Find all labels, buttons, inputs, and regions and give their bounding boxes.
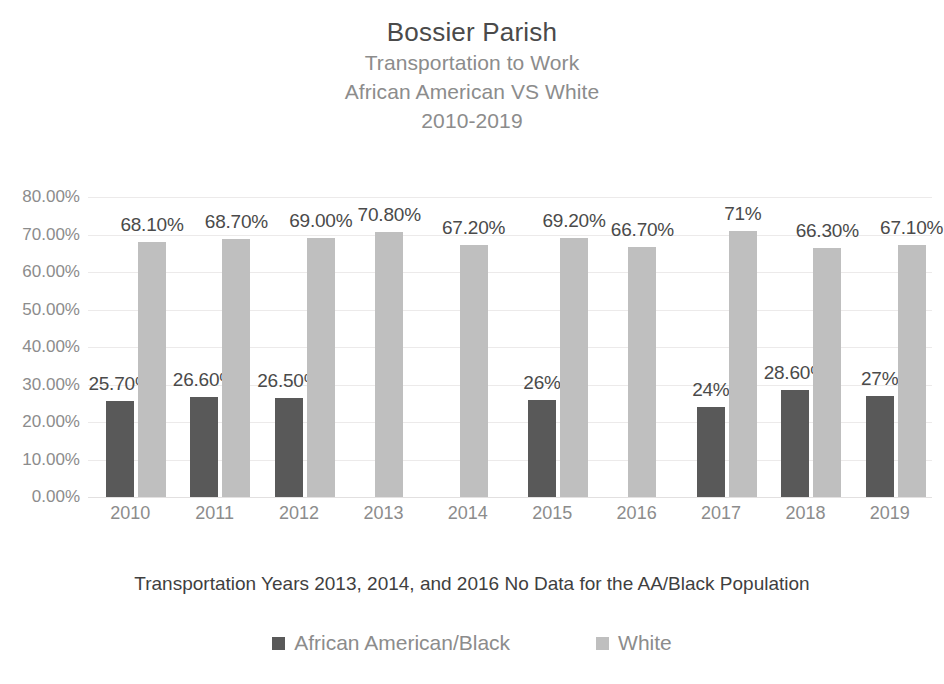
legend-swatch-icon xyxy=(272,637,285,650)
x-axis-tick-2017: 2017 xyxy=(679,503,763,533)
x-axis-tick-2014: 2014 xyxy=(426,503,510,533)
bar-label-white: 71% xyxy=(724,203,761,225)
bar-label-white: 67.20% xyxy=(442,217,505,239)
x-axis-tick-2015: 2015 xyxy=(510,503,594,533)
chart-canvas: Bossier Parish Transportation to Work Af… xyxy=(0,0,944,684)
bar-white[interactable] xyxy=(375,232,403,498)
bar-group: 26.60%68.70% xyxy=(172,197,256,497)
bar-group: 28.60%66.30% xyxy=(763,197,847,497)
bars-layer: 25.70%68.10%26.60%68.70%26.50%69.00%70.8… xyxy=(88,197,932,497)
x-axis: 2010201120122013201420152016201720182019 xyxy=(88,503,932,533)
chart-subtitle-3: 2010-2019 xyxy=(0,106,944,135)
bar-group: 70.80% xyxy=(341,197,425,497)
y-axis-tick: 10.00% xyxy=(22,450,80,470)
bar-white[interactable] xyxy=(628,247,656,497)
x-axis-tick-2010: 2010 xyxy=(88,503,172,533)
y-axis-tick: 50.00% xyxy=(22,300,80,320)
bar-african-american[interactable] xyxy=(106,401,134,497)
bar-white[interactable] xyxy=(138,242,166,497)
bar-white[interactable] xyxy=(729,231,757,497)
page-title: Bossier Parish xyxy=(0,16,944,48)
y-axis-tick: 40.00% xyxy=(22,337,80,357)
bar-group: 24%71% xyxy=(679,197,763,497)
bar-african-american[interactable] xyxy=(697,407,725,497)
bar-white[interactable] xyxy=(813,248,841,497)
bar-group: 27%67.10% xyxy=(848,197,932,497)
bar-label-white: 67.10% xyxy=(880,217,943,239)
y-axis-tick: 20.00% xyxy=(22,412,80,432)
x-axis-tick-2012: 2012 xyxy=(257,503,341,533)
y-axis-tick: 0.00% xyxy=(32,487,80,507)
bar-african-american[interactable] xyxy=(275,398,303,497)
chart-subtitle-1: Transportation to Work xyxy=(0,48,944,77)
bar-african-american[interactable] xyxy=(866,396,894,497)
x-axis-tick-2013: 2013 xyxy=(341,503,425,533)
x-axis-tick-2019: 2019 xyxy=(848,503,932,533)
y-axis: 80.00%70.00%60.00%50.00%40.00%30.00%20.0… xyxy=(6,185,80,509)
x-axis-tick-2016: 2016 xyxy=(594,503,678,533)
x-axis-tick-2018: 2018 xyxy=(763,503,847,533)
chart-legend: African American/BlackWhite xyxy=(0,631,944,655)
y-axis-tick: 70.00% xyxy=(22,225,80,245)
legend-item[interactable]: White xyxy=(596,631,672,655)
bar-african-american[interactable] xyxy=(190,397,218,497)
bar-african-american[interactable] xyxy=(528,400,556,498)
title-block: Bossier Parish Transportation to Work Af… xyxy=(0,16,944,135)
legend-label: African American/Black xyxy=(294,631,510,655)
bar-white[interactable] xyxy=(307,238,335,497)
bar-group: 66.70% xyxy=(594,197,678,497)
gridline xyxy=(88,497,932,498)
bar-white[interactable] xyxy=(560,238,588,498)
bar-african-american[interactable] xyxy=(781,390,809,497)
bar-white[interactable] xyxy=(460,245,488,497)
x-axis-tick-2011: 2011 xyxy=(172,503,256,533)
legend-label: White xyxy=(618,631,672,655)
legend-item[interactable]: African American/Black xyxy=(272,631,510,655)
bar-group: 25.70%68.10% xyxy=(88,197,172,497)
bar-white[interactable] xyxy=(222,239,250,497)
bar-label-white: 66.70% xyxy=(611,219,674,241)
bar-white[interactable] xyxy=(898,245,926,497)
bar-label-african-american: 24% xyxy=(692,379,729,401)
bar-group: 26%69.20% xyxy=(510,197,594,497)
y-axis-tick: 30.00% xyxy=(22,375,80,395)
y-axis-tick: 80.00% xyxy=(22,187,80,207)
y-axis-tick: 60.00% xyxy=(22,262,80,282)
chart-annotation: Transportation Years 2013, 2014, and 201… xyxy=(0,573,944,595)
bar-label-african-american: 27% xyxy=(861,368,898,390)
bar-group: 67.20% xyxy=(426,197,510,497)
legend-swatch-icon xyxy=(596,637,609,650)
bar-group: 26.50%69.00% xyxy=(257,197,341,497)
bar-label-white: 70.80% xyxy=(358,204,421,226)
chart-subtitle-2: African American VS White xyxy=(0,77,944,106)
bar-label-african-american: 26% xyxy=(523,372,560,394)
